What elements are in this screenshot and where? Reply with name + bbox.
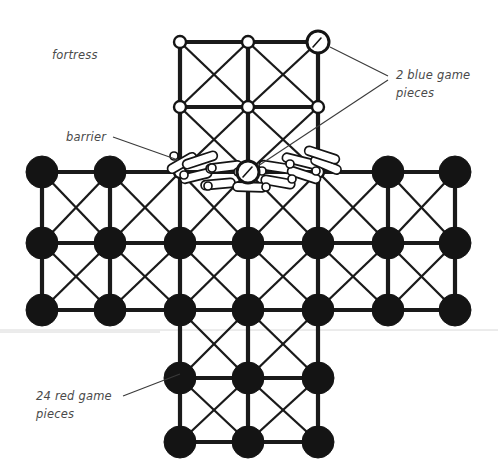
open-point[interactable] — [312, 101, 324, 113]
open-point[interactable] — [174, 36, 186, 48]
red-piece[interactable] — [232, 227, 264, 259]
blue-piece[interactable] — [237, 161, 259, 183]
leader-lines — [113, 47, 388, 396]
blue-piece[interactable] — [307, 31, 329, 53]
open-point[interactable] — [242, 101, 254, 113]
barrier-ring — [180, 171, 188, 179]
red-piece[interactable] — [439, 156, 471, 188]
red-piece[interactable] — [302, 294, 334, 326]
red-piece[interactable] — [372, 294, 404, 326]
red-piece[interactable] — [232, 362, 264, 394]
red-piece[interactable] — [94, 156, 126, 188]
red-piece[interactable] — [164, 426, 196, 458]
red-piece[interactable] — [232, 426, 264, 458]
red-piece[interactable] — [439, 227, 471, 259]
barrier-ring — [208, 164, 216, 172]
red-piece[interactable] — [26, 156, 58, 188]
barrier-ring — [262, 183, 270, 191]
red-piece[interactable] — [302, 227, 334, 259]
barrier-ring — [312, 167, 320, 175]
red-piece[interactable] — [164, 294, 196, 326]
barrier-ring — [286, 160, 294, 168]
label-blue-pieces-line1: 2 blue game — [396, 68, 470, 82]
red-piece[interactable] — [26, 227, 58, 259]
leader-line-barrier — [113, 137, 178, 160]
red-piece[interactable] — [164, 227, 196, 259]
board-svg: fortress barrier 2 blue game pieces 24 r… — [0, 0, 498, 475]
label-fortress: fortress — [52, 48, 98, 62]
open-point[interactable] — [174, 101, 186, 113]
board-diagram: fortress barrier 2 blue game pieces 24 r… — [0, 0, 498, 475]
leader-line-blue-1 — [330, 47, 388, 76]
red-piece[interactable] — [439, 294, 471, 326]
label-red-pieces-line1: 24 red game — [36, 389, 112, 403]
red-piece[interactable] — [302, 426, 334, 458]
red-piece[interactable] — [372, 227, 404, 259]
barrier-ring — [288, 175, 296, 183]
red-piece[interactable] — [232, 294, 264, 326]
label-barrier: barrier — [66, 130, 107, 144]
red-piece[interactable] — [372, 156, 404, 188]
red-piece[interactable] — [94, 227, 126, 259]
red-piece[interactable] — [94, 294, 126, 326]
label-red-pieces-line2: pieces — [35, 407, 74, 421]
barrier-ring — [204, 182, 212, 190]
red-piece[interactable] — [302, 362, 334, 394]
open-point[interactable] — [242, 36, 254, 48]
red-piece[interactable] — [26, 294, 58, 326]
label-blue-pieces-line2: pieces — [395, 86, 434, 100]
